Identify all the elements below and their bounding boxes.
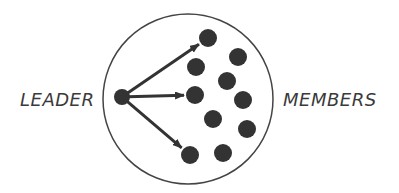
member-node bbox=[187, 58, 205, 76]
arrow bbox=[127, 101, 182, 148]
leader-label: LEADER bbox=[20, 89, 94, 110]
member-node bbox=[238, 120, 256, 138]
member-node bbox=[229, 48, 247, 66]
member-node bbox=[218, 72, 236, 90]
member-node bbox=[214, 144, 232, 162]
leader-node bbox=[114, 89, 130, 105]
member-node bbox=[199, 29, 217, 47]
leader-members-diagram: LEADER MEMBERS bbox=[0, 0, 399, 193]
arrow bbox=[128, 95, 184, 97]
member-node bbox=[181, 146, 199, 164]
member-node bbox=[186, 86, 204, 104]
members-label: MEMBERS bbox=[283, 89, 377, 110]
member-node bbox=[204, 110, 222, 128]
member-node bbox=[234, 91, 252, 109]
